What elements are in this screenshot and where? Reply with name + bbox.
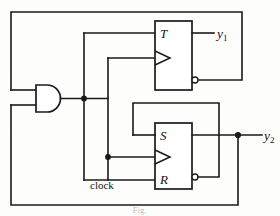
label-y2-subscript: 2 <box>270 135 275 145</box>
label-output-y1: y1 <box>215 26 228 43</box>
label-y1-subscript: 1 <box>223 33 228 43</box>
wire-bottom-feedback-loop <box>11 105 238 205</box>
circuit-figure: T S R clock y1 y2 Fig. <box>0 0 280 216</box>
label-output-y2: y2 <box>262 128 275 145</box>
and-gate-body <box>36 85 61 112</box>
junction-clock <box>105 154 111 160</box>
t-qbar-bubble-icon <box>192 77 198 83</box>
label-y1-base: y <box>215 26 223 41</box>
label-clock: clock <box>90 179 114 191</box>
figure-bottom-caption: Fig. <box>0 206 280 216</box>
label-t-input: T <box>160 26 168 41</box>
label-s-input: S <box>160 128 167 143</box>
sr-qbar-bubble-icon <box>192 174 198 180</box>
junction-y2 <box>235 132 241 138</box>
circuit-schematic: T S R clock y1 y2 <box>0 0 280 216</box>
label-y2-base: y <box>262 128 270 143</box>
wire-top-feedback-loop <box>11 12 242 90</box>
label-r-input: R <box>159 172 168 187</box>
